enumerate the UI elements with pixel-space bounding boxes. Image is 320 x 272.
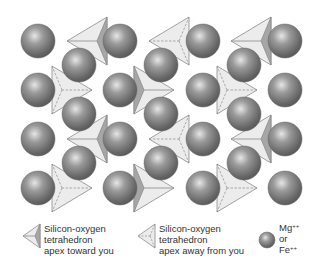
cation-sphere-icon bbox=[227, 97, 261, 131]
inner-sphere-layer bbox=[62, 48, 261, 180]
legend-line: or bbox=[279, 233, 299, 244]
cation-sphere-icon bbox=[62, 97, 96, 131]
cation-sphere-icon bbox=[144, 48, 178, 82]
cation-sphere-icon bbox=[144, 97, 178, 131]
cation-sphere-icon bbox=[103, 122, 137, 156]
legend-tetra-away-label: Silicon-oxygen tetrahedron apex away fro… bbox=[159, 223, 244, 256]
fe-label: Fe bbox=[279, 244, 290, 255]
legend-tetra-toward-icon bbox=[23, 224, 40, 248]
cation-sphere-icon bbox=[268, 73, 302, 107]
legend-line: apex away from you bbox=[159, 245, 244, 256]
legend-tetra-away-icon bbox=[138, 224, 155, 248]
cation-sphere-icon bbox=[227, 146, 261, 180]
cation-sphere-icon bbox=[103, 24, 137, 58]
cation-sphere-icon bbox=[186, 73, 220, 107]
legend-line: tetrahedron bbox=[44, 234, 114, 245]
cation-sphere-icon bbox=[186, 24, 220, 58]
legend-line: apex toward you bbox=[44, 245, 114, 256]
cation-sphere-icon bbox=[103, 73, 137, 107]
legend-cation-label: Mg++ or Fe++ bbox=[279, 222, 299, 255]
legend-tetra-toward: Silicon-oxygen tetrahedron apex toward y… bbox=[44, 223, 114, 256]
legend-line: Fe++ bbox=[279, 244, 299, 255]
cation-sphere-icon bbox=[21, 24, 55, 58]
legend-line: Silicon-oxygen bbox=[159, 223, 244, 234]
legend-tetra-away: Silicon-oxygen tetrahedron apex away fro… bbox=[159, 223, 244, 256]
cation-sphere-icon bbox=[144, 146, 178, 180]
cation-sphere-icon bbox=[62, 48, 96, 82]
cation-sphere-icon bbox=[103, 171, 137, 205]
legend-line: tetrahedron bbox=[159, 234, 244, 245]
cation-sphere-icon bbox=[21, 122, 55, 156]
cation-sphere-icon bbox=[268, 171, 302, 205]
charge-label: ++ bbox=[290, 245, 297, 251]
cation-sphere-icon bbox=[268, 122, 302, 156]
legend-tetra-toward-label: Silicon-oxygen tetrahedron apex toward y… bbox=[44, 223, 114, 256]
cation-sphere-icon bbox=[21, 73, 55, 107]
charge-label: ++ bbox=[292, 223, 299, 229]
mg-label: Mg bbox=[279, 222, 292, 233]
cation-sphere-icon bbox=[268, 24, 302, 58]
legend-cation: Mg++ or Fe++ bbox=[279, 222, 299, 255]
legend-cation-sphere-icon bbox=[259, 232, 275, 248]
cation-sphere-icon bbox=[186, 171, 220, 205]
cation-sphere-icon bbox=[186, 122, 220, 156]
cation-sphere-icon bbox=[21, 171, 55, 205]
cation-sphere-icon bbox=[227, 48, 261, 82]
legend-line: Silicon-oxygen bbox=[44, 223, 114, 234]
cation-sphere-icon bbox=[62, 146, 96, 180]
legend-line: Mg++ bbox=[279, 222, 299, 233]
